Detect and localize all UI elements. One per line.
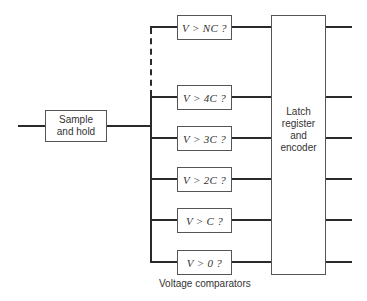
branch-wire-3c (150, 137, 177, 139)
comp-out-wire-nc (232, 26, 272, 28)
comparator-0: V > 0 ? (177, 250, 232, 275)
sample-and-hold-label: Sample and hold (54, 114, 98, 138)
comparator-2c: V > 2C ? (177, 167, 232, 192)
comp-out-wire-4c (232, 96, 272, 98)
comparator-c-label: V > C ? (186, 215, 223, 227)
comp-out-wire-2c (232, 178, 272, 180)
comparator-4c: V > 4C ? (177, 85, 232, 110)
output-wire-2 (326, 96, 352, 98)
bus-top-stub (150, 26, 177, 28)
latch-register-encoder-block: Latch register and encoder (271, 15, 326, 275)
comparator-2c-label: V > 2C ? (183, 174, 226, 186)
comparator-nc: V > NC ? (177, 15, 232, 40)
comp-out-wire-3c (232, 137, 272, 139)
latch-register-encoder-label: Latch register and encoder (279, 106, 319, 154)
comparator-0-label: V > 0 ? (187, 257, 222, 269)
branch-wire-c (150, 219, 177, 221)
comp-out-wire-c (232, 219, 272, 221)
comparator-3c-label: V > 3C ? (183, 133, 226, 145)
output-wire-1 (326, 26, 352, 28)
branch-wire-0 (150, 261, 177, 263)
flash-adc-diagram: Sample and hold V > NC ? V > 4C ? V > 3C… (0, 0, 367, 301)
output-wire-3 (326, 137, 352, 139)
comparator-3c: V > 3C ? (177, 126, 232, 151)
bus-dashed-segment (150, 28, 152, 96)
comparator-nc-label: V > NC ? (182, 22, 227, 34)
output-wire-6 (326, 261, 352, 263)
sh-to-bus-wire (107, 125, 151, 127)
output-wire-4 (326, 178, 352, 180)
output-wire-5 (326, 219, 352, 221)
input-wire (18, 125, 45, 127)
branch-wire-2c (150, 178, 177, 180)
sample-and-hold-block: Sample and hold (45, 110, 107, 142)
comparator-4c-label: V > 4C ? (183, 92, 226, 104)
branch-wire-4c (150, 96, 177, 98)
comparator-c: V > C ? (177, 208, 232, 233)
comp-out-wire-0 (232, 261, 272, 263)
voltage-comparators-caption: Voltage comparators (159, 278, 251, 289)
